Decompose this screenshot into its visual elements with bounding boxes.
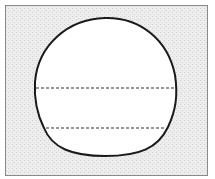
diagram-canvas <box>0 0 215 179</box>
rounded-shape <box>35 18 177 156</box>
